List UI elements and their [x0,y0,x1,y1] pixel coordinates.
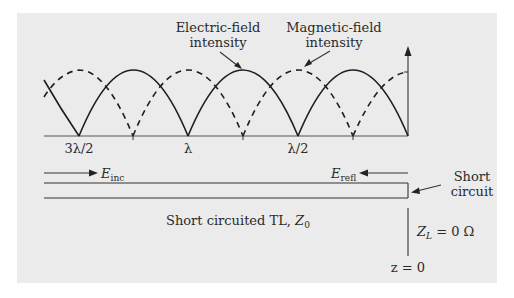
electric-field-label-line2: intensity [189,35,247,50]
standing-wave-diagram: Electric-field intensity Magnetic-field … [0,0,514,298]
magnetic-field-label-line2: intensity [305,35,363,50]
magnetic-field-label: Magnetic-field [286,20,381,35]
origin-label: z = 0 [391,260,425,275]
short-circuit-label: Short [454,169,491,184]
electric-field-label: Electric-field [176,20,261,35]
tick-label-3-half-lambda: 3λ/2 [64,141,93,156]
zl-label: ZL = 0 Ω [416,224,474,241]
tl-label: Short circuited TL, Z0 [166,213,310,230]
short-circuit-label-line2: circuit [451,184,494,199]
tick-label-half-lambda: λ/2 [288,141,309,156]
tick-label-lambda: λ [184,141,192,156]
